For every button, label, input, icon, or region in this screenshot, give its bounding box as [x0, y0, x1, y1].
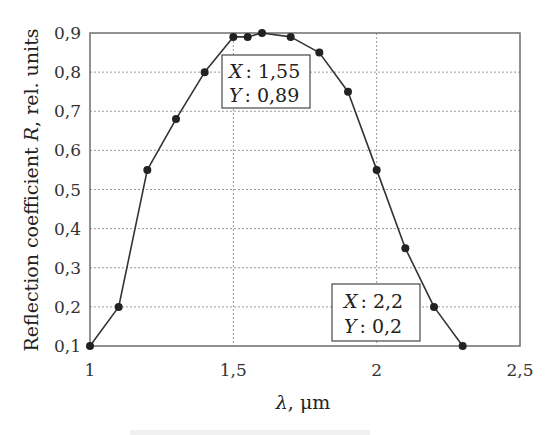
data-point	[459, 342, 467, 350]
x-tick-label: 1	[85, 360, 96, 380]
datatip-tail: X: 2,2 Y: 0,2	[332, 284, 420, 341]
caption-cutoff	[130, 430, 370, 435]
x-axis-title: λ, μm	[275, 391, 331, 413]
data-point	[172, 115, 180, 123]
data-point	[315, 49, 323, 57]
data-point	[143, 166, 151, 174]
x-tick-label: 2,5	[506, 360, 533, 380]
datatip-tail-x: X: 2,2	[342, 290, 403, 312]
data-point	[401, 244, 409, 252]
datatip-peak-y: Y: 0,89	[229, 84, 299, 106]
data-point	[86, 342, 94, 350]
y-tick-label: 0,2	[54, 297, 81, 317]
x-tick-label: 1,5	[220, 360, 247, 380]
data-point	[115, 303, 123, 311]
y-axis-title: Reflection coefficient R, rel. units	[20, 28, 42, 351]
datatip-peak-x: X: 1,55	[227, 60, 300, 82]
x-tick-label: 2	[371, 360, 382, 380]
y-tick-labels: 0,10,20,30,40,50,60,70,80,9	[54, 23, 81, 356]
data-point	[373, 166, 381, 174]
data-point	[258, 29, 266, 37]
data-point	[287, 33, 295, 41]
data-point	[344, 88, 352, 96]
chart: 0,10,20,30,40,50,60,70,80,9 11,522,5 X: …	[0, 0, 551, 435]
y-tick-label: 0,1	[54, 336, 81, 356]
datatip-tail-y: Y: 0,2	[344, 315, 402, 337]
y-tick-label: 0,7	[54, 101, 81, 121]
x-tick-labels: 11,522,5	[85, 360, 534, 380]
y-tick-label: 0,6	[54, 140, 81, 160]
y-tick-label: 0,3	[54, 258, 81, 278]
y-tick-label: 0,4	[54, 219, 81, 239]
datatip-peak: X: 1,55 Y: 0,89	[222, 55, 310, 108]
y-tick-label: 0,5	[54, 180, 81, 200]
data-point	[430, 303, 438, 311]
y-tick-label: 0,8	[54, 62, 81, 82]
data-point	[244, 33, 252, 41]
y-tick-label: 0,9	[54, 23, 81, 43]
data-point	[229, 33, 237, 41]
data-point	[201, 68, 209, 76]
